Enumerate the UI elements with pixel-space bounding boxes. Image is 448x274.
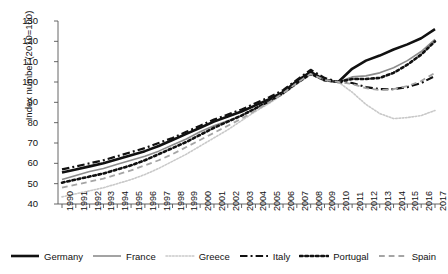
x-tick-label: 2005 [273,191,282,211]
x-tick-label: 2001 [218,191,227,211]
legend-item-germany[interactable]: Germany [10,251,83,262]
legend-label-greece: Greece [199,251,230,262]
x-tick-label: 1990 [66,191,75,211]
x-tick-label: 1992 [94,191,103,211]
series-line-portugal [62,41,435,182]
legend-label-portugal: Portugal [333,251,368,262]
legend-swatch-germany [10,251,40,261]
legend-item-italy[interactable]: Italy [239,251,290,262]
x-tick-label: 2013 [384,191,393,211]
x-tick-label: 2008 [315,191,324,211]
x-tick-label: 1998 [177,191,186,211]
series-line-greece [62,75,435,197]
x-tick-label: 2002 [232,191,241,211]
x-tick-label: 1999 [190,191,199,211]
x-tick-label: 2016 [425,191,434,211]
legend-item-greece[interactable]: Greece [165,251,230,262]
x-tick-label: 1993 [107,191,116,211]
x-tick-label: 2015 [411,191,420,211]
x-tick-label: 2014 [398,191,407,211]
legend-swatch-portugal [299,251,329,261]
x-tick-label: 2000 [204,191,213,211]
series-line-germany [62,29,435,172]
x-tick-label: 2017 [439,191,448,211]
x-tick-label: 2003 [246,191,255,211]
x-tick-label: 1991 [80,191,89,211]
legend-label-spain: Spain [412,251,436,262]
x-tick-label: 2012 [370,191,379,211]
x-tick-label: 2009 [328,191,337,211]
legend-swatch-spain [378,251,408,261]
legend-swatch-greece [165,251,195,261]
legend-item-france[interactable]: France [92,251,156,262]
x-tick-label: 1994 [121,191,130,211]
legend-label-italy: Italy [273,251,290,262]
series-line-spain [62,73,435,188]
x-tick-label: 2006 [287,191,296,211]
x-tick-label: 1996 [149,191,158,211]
legend-item-portugal[interactable]: Portugal [299,251,368,262]
x-tick-label: 2011 [356,192,365,211]
legend-label-germany: Germany [44,251,83,262]
chart-legend: GermanyFranceGreeceItalyPortugalSpain [0,246,446,266]
x-tick-label: 2007 [301,191,310,211]
x-tick-label: 2004 [259,191,268,211]
legend-label-france: France [126,251,156,262]
legend-swatch-france [92,251,122,261]
legend-swatch-italy [239,251,269,261]
legend-item-spain[interactable]: Spain [378,251,436,262]
x-tick-label: 1997 [163,191,172,211]
x-tick-label: 1995 [135,191,144,211]
x-tick-label: 2010 [342,191,351,211]
series-line-italy [62,70,435,170]
